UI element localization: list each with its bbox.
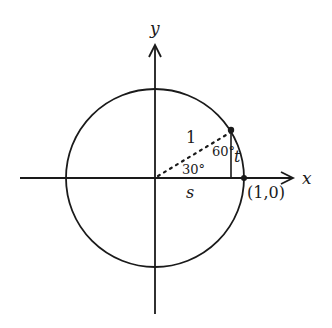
point-on-circle xyxy=(228,127,234,133)
point-1-0-label: (1,0) xyxy=(247,183,285,202)
point-1-0 xyxy=(241,175,247,181)
s-label: s xyxy=(186,183,194,202)
unit-circle-diagram: y x 1 60° 30° t s (1,0) xyxy=(0,0,332,328)
angle-30-label: 30° xyxy=(182,162,205,177)
y-axis xyxy=(149,45,161,314)
x-axis-label: x xyxy=(302,168,312,188)
hypotenuse-label: 1 xyxy=(186,128,196,147)
t-label: t xyxy=(234,147,241,166)
angle-60-label: 60° xyxy=(212,144,235,159)
y-axis-label: y xyxy=(149,18,160,38)
